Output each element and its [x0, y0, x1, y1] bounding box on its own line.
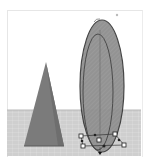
- resize-handle-ne[interactable]: [113, 132, 117, 136]
- edge-handle-n[interactable]: [94, 134, 97, 137]
- edge-handle-e[interactable]: [118, 139, 121, 142]
- scene-canvas[interactable]: [0, 0, 149, 164]
- ellipsoid-shape[interactable]: [80, 14, 124, 152]
- pyramid-shape[interactable]: [24, 62, 64, 146]
- resize-handle-sw[interactable]: [81, 144, 85, 148]
- workplane-viewport[interactable]: [0, 0, 149, 164]
- resize-handle-nw[interactable]: [79, 134, 83, 138]
- resize-handle-se[interactable]: [122, 143, 126, 147]
- edge-handle-w[interactable]: [81, 140, 84, 143]
- rotate-handle-icon[interactable]: [116, 14, 118, 16]
- edge-handle-s[interactable]: [103, 145, 106, 148]
- resize-handle-mid[interactable]: [97, 138, 101, 142]
